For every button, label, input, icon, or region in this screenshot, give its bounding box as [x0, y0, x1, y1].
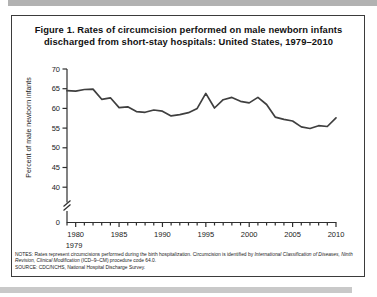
x-tick-label: 1990: [154, 230, 171, 239]
y-tick-label: 60: [52, 104, 60, 113]
y-tick-label: 65: [52, 84, 60, 93]
y-zero-label: 0: [56, 218, 60, 227]
x-tick-label: 1995: [197, 230, 214, 239]
notes-prefix: NOTES: Rates represent circumcisions per…: [15, 252, 254, 257]
y-tick-label: 40: [52, 183, 60, 192]
x-tick-label: 2005: [284, 230, 301, 239]
y-tick-label: 55: [52, 124, 60, 133]
notes-text: NOTES: Rates represent circumcisions per…: [15, 252, 360, 265]
y-tick-label: 45: [52, 163, 60, 172]
y-tick-label: 50: [52, 143, 60, 152]
y-tick-label: 70: [52, 65, 60, 74]
x-start-label: 1979: [66, 241, 83, 250]
x-tick-label: 1985: [111, 230, 128, 239]
data-line: [67, 89, 336, 128]
x-tick-label: 2010: [328, 230, 345, 239]
source-text: SOURCE: CDC/NCHS, National Hospital Disc…: [15, 265, 360, 271]
x-tick-label: 2000: [241, 230, 258, 239]
notes-suffix: (ICD–9–CM) procedure code 64.0.: [80, 258, 156, 263]
y-axis-title: Percent of male newborn infants: [25, 77, 32, 178]
x-tick-label: 1980: [67, 230, 84, 239]
footnotes: NOTES: Rates represent circumcisions per…: [15, 252, 360, 271]
